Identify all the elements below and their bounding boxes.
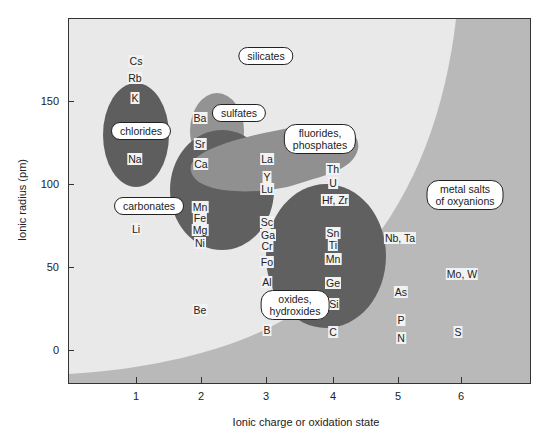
x-tick-mark [333, 377, 334, 383]
element-label: Li [131, 223, 141, 235]
oxides-hydroxides-bubble: oxides, hydroxides [261, 290, 330, 320]
y-tick-label: 150 [41, 95, 59, 107]
x-tick-mark [266, 377, 267, 383]
y-tick-mark [68, 184, 74, 185]
element-label: Al [261, 276, 272, 288]
element-label: Fo [260, 256, 274, 268]
element-label: Cr [260, 240, 273, 252]
y-axis-label: Ionic radius (pm) [16, 159, 28, 241]
element-label: P [396, 314, 405, 326]
y-tick-mark [68, 350, 74, 351]
element-label: Rb [127, 72, 142, 84]
y-tick-label: 0 [53, 344, 59, 356]
x-tick-mark [136, 377, 137, 383]
x-tick-mark [398, 377, 399, 383]
element-label: N [396, 332, 406, 344]
y-tick-label: 100 [41, 178, 59, 190]
x-tick-mark [201, 377, 202, 383]
element-label: Sr [194, 138, 207, 150]
element-label: Be [193, 304, 208, 316]
y-tick-mark [68, 267, 74, 268]
element-label: As [394, 286, 408, 298]
chlorides-bubble: chlorides [111, 122, 171, 140]
element-label: La [260, 153, 274, 165]
element-label: Sn [326, 227, 341, 239]
silicates-bubble: silicates [238, 47, 293, 65]
x-tick-label: 6 [458, 390, 464, 402]
sulfates-bubble: sulfates [212, 104, 266, 122]
element-label: Ti [328, 239, 338, 251]
element-label: Y [262, 171, 271, 183]
element-label: K [130, 92, 139, 104]
element-label: Sc [260, 216, 274, 228]
x-axis-label: Ionic charge or oxidation state [233, 416, 380, 428]
element-label: Mg [192, 224, 209, 236]
element-label: Ca [193, 158, 208, 170]
element-label: Hf, Zr [321, 194, 349, 206]
element-label: S [453, 326, 462, 338]
element-label: Lu [260, 183, 274, 195]
element-label: U [328, 177, 338, 189]
fluorides-phosphates-bubble: fluorides, phosphates [284, 124, 356, 154]
element-label: Cs [129, 55, 144, 67]
x-tick-label: 1 [133, 390, 139, 402]
x-tick-label: 4 [330, 390, 336, 402]
carbonates-bubble: carbonates [114, 197, 184, 215]
x-tick-label: 5 [395, 390, 401, 402]
element-label: Ni [194, 237, 206, 249]
element-label: Mo, W [446, 268, 478, 280]
y-tick-mark [68, 101, 74, 102]
element-label: Si [328, 298, 339, 310]
metal-salts-bubble: metal salts of oxyanions [427, 180, 504, 210]
x-tick-mark [461, 377, 462, 383]
element-label: Ba [193, 112, 208, 124]
x-tick-label: 3 [263, 390, 269, 402]
element-label: C [328, 326, 338, 338]
element-label: Nb, Ta [384, 232, 416, 244]
element-label: Mn [325, 253, 342, 265]
element-label: B [262, 324, 271, 336]
x-tick-label: 2 [198, 390, 204, 402]
element-label: Ge [325, 277, 341, 289]
element-label: Na [127, 153, 142, 165]
element-label: Th [326, 163, 340, 175]
y-tick-label: 50 [47, 261, 59, 273]
element-label: Fe [193, 212, 207, 224]
